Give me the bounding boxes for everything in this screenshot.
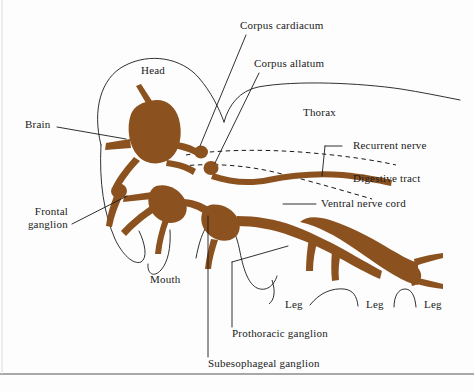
leg-arch-2 xyxy=(394,289,416,307)
label-corpus-cardiacum: Corpus cardiacum xyxy=(240,19,324,32)
nervous-system-group xyxy=(105,84,443,289)
leader-corpus-allatum xyxy=(215,73,259,163)
leader-brain xyxy=(57,127,126,139)
brain-shape xyxy=(129,100,181,164)
subesophageal-nerve-a xyxy=(123,192,152,202)
corpus-cardiacum-shape xyxy=(194,146,208,159)
leg-nerve-stub-anterior xyxy=(306,238,318,271)
prothoracic-leg-nerve xyxy=(205,239,218,269)
leader-frontal-ganglion xyxy=(72,196,127,224)
label-ventral-nerve-cord: Ventral nerve cord xyxy=(321,197,406,210)
label-leg-3: Leg xyxy=(424,298,442,311)
leg-descender-curve xyxy=(269,280,274,304)
leg-arch-1 xyxy=(310,289,358,306)
label-corpus-allatum: Corpus allatum xyxy=(254,57,324,70)
subesophageal-ganglion-shape xyxy=(148,185,186,223)
label-thorax: Thorax xyxy=(303,106,336,119)
label-mouth: Mouth xyxy=(150,273,180,286)
circumesophageal-connective-lower xyxy=(166,160,196,175)
subesophageal-nerve-c xyxy=(155,219,169,254)
label-head: Head xyxy=(141,64,165,77)
leg-outlines-group xyxy=(310,289,416,307)
frontal-ganglion-nerve xyxy=(106,196,122,227)
label-prothoracic-ganglion: Prothoracic ganglion xyxy=(232,327,328,340)
leg-nerve-stub-posterior xyxy=(331,250,341,281)
label-frontal-ganglion-line2: ganglion xyxy=(0,218,68,231)
label-leg-2: Leg xyxy=(366,298,384,311)
label-subesophageal-ganglion: Subesophageal ganglion xyxy=(208,357,320,370)
antennal-nerve-dorsal xyxy=(136,84,152,103)
prothoracic-ganglion-shape xyxy=(201,205,240,241)
abdominal-ganglion-mass xyxy=(300,217,418,285)
label-brain: Brain xyxy=(25,118,50,131)
brain-lateral-nerve-left xyxy=(105,139,131,150)
insect-nervous-system-figure: Head Brain Corpus cardiacum Corpus allat… xyxy=(0,0,474,392)
label-digestive-tract: Digestive tract xyxy=(353,172,420,185)
label-leg-1: Leg xyxy=(285,298,303,311)
label-frontal-ganglion-line1: Frontal xyxy=(0,205,68,218)
nerve-cord-tail-upper-fork xyxy=(414,253,443,266)
corpus-allatum-shape xyxy=(204,161,219,175)
label-recurrent-nerve: Recurrent nerve xyxy=(353,139,427,152)
thorax-outline xyxy=(224,83,460,122)
leader-corpus-cardiacum xyxy=(200,35,246,146)
subesophageal-nerve-b xyxy=(121,205,156,236)
